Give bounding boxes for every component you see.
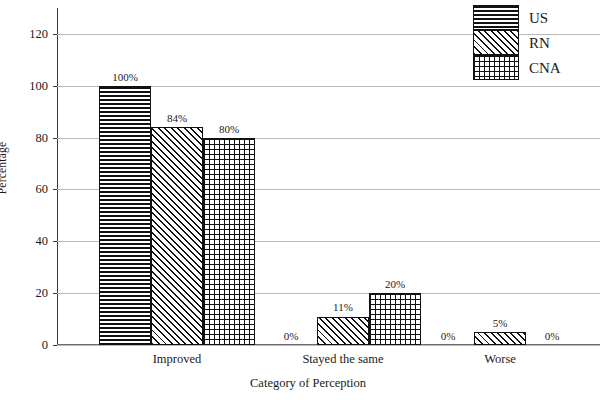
bar-value-label: 0% bbox=[545, 330, 560, 342]
bar-value-label: 11% bbox=[333, 301, 353, 313]
y-tick-mark bbox=[53, 241, 57, 242]
legend-label-rn: RN bbox=[529, 34, 550, 51]
bar-rn-1 bbox=[317, 317, 369, 346]
legend-item-rn: RN bbox=[473, 30, 603, 55]
legend: USRNCNA bbox=[473, 5, 603, 80]
bar-value-label: 80% bbox=[219, 123, 239, 135]
bar-rn-0 bbox=[151, 127, 203, 345]
bar-cna-1 bbox=[369, 293, 421, 345]
y-tick-label: 40 bbox=[2, 234, 48, 249]
y-tick-mark bbox=[53, 293, 57, 294]
legend-item-us: US bbox=[473, 5, 603, 30]
bar-value-label: 0% bbox=[284, 330, 299, 342]
bar-chart: Percentage 100%84%80%0%11%20%0%5%0% 0204… bbox=[0, 0, 616, 400]
x-axis-title: Category of Perception bbox=[0, 376, 616, 391]
bar-value-label: 100% bbox=[112, 71, 138, 83]
y-tick-label: 80 bbox=[2, 130, 48, 145]
legend-swatch-rn bbox=[473, 30, 519, 55]
y-tick-label: 20 bbox=[2, 286, 48, 301]
legend-label-cna: CNA bbox=[529, 59, 561, 76]
bar-value-label: 5% bbox=[493, 317, 508, 329]
legend-swatch-us bbox=[473, 5, 519, 30]
y-tick-mark bbox=[53, 138, 57, 139]
bar-us-0 bbox=[99, 86, 151, 345]
y-tick-mark bbox=[53, 189, 57, 190]
legend-swatch-cna bbox=[473, 55, 519, 80]
bar-cna-0 bbox=[203, 138, 255, 345]
y-tick-label: 100 bbox=[2, 78, 48, 93]
category-label-2: Worse bbox=[484, 352, 516, 367]
y-tick-mark bbox=[53, 345, 57, 346]
bar-rn-2 bbox=[474, 332, 526, 345]
legend-label-us: US bbox=[529, 9, 548, 26]
y-tick-mark bbox=[53, 34, 57, 35]
legend-item-cna: CNA bbox=[473, 55, 603, 80]
bar-value-label: 20% bbox=[385, 278, 405, 290]
y-tick-label: 120 bbox=[2, 26, 48, 41]
bar-value-label: 84% bbox=[167, 112, 187, 124]
category-label-1: Stayed the same bbox=[302, 352, 383, 367]
category-label-0: Improved bbox=[153, 352, 202, 367]
gridline bbox=[57, 345, 600, 346]
bar-value-label: 0% bbox=[441, 330, 456, 342]
y-tick-label: 60 bbox=[2, 182, 48, 197]
y-tick-mark bbox=[53, 86, 57, 87]
y-tick-label: 0 bbox=[2, 338, 48, 353]
